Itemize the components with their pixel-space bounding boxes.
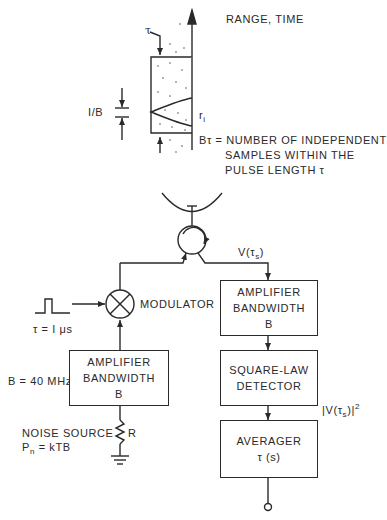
block-line: B [265, 316, 273, 332]
bandwidth-value-label: B = 40 MHz [8, 374, 72, 388]
block-line: AMPLIFIER [87, 354, 150, 370]
square-law-detector-block: SQUARE-LAW DETECTOR [220, 350, 318, 406]
signal-v-label: V(τs) [238, 245, 264, 264]
right-amplifier-block: AMPLIFIER BANDWIDTH B [220, 280, 318, 336]
tau-label: τ [145, 24, 152, 38]
range-cell-label: ri [199, 108, 206, 127]
block-line: B [115, 386, 123, 402]
averager-block: AVERAGER τ (s) [220, 420, 318, 478]
pulse-waveform [35, 299, 70, 313]
left-amplifier-block: AMPLIFIER BANDWIDTH B [69, 350, 169, 406]
btau-label-line2: SAMPLES WITHIN THE [225, 148, 355, 162]
axis-label: RANGE, TIME [226, 12, 304, 26]
resistor [116, 420, 124, 444]
block-line: DETECTOR [236, 378, 301, 394]
resistor-label: R [128, 426, 137, 440]
pulse-volume-outline [151, 57, 192, 133]
block-line: AVERAGER [236, 433, 301, 449]
noise-source-label: NOISE SOURCE [22, 426, 114, 440]
block-line: τ (s) [257, 449, 280, 465]
block-line: AMPLIFIER [237, 284, 300, 300]
bandwidth-marker-label: I/B [88, 105, 103, 119]
modulator-label: MODULATOR [140, 297, 215, 311]
btau-label-line3: PULSE LENGTH τ [225, 163, 325, 177]
tx-path [120, 253, 186, 263]
block-line: BANDWIDTH [233, 300, 305, 316]
block-line: SQUARE-LAW [229, 362, 309, 378]
pulse-label: τ = I μs [33, 322, 73, 336]
signal-squared-label: |V(τs)|2 [322, 400, 360, 422]
range-cell-shape [151, 98, 192, 126]
output-terminal [265, 504, 272, 511]
range-axis-arrowhead [188, 10, 196, 24]
btau-label-line1: Bτ = NUMBER OF INDEPENDENT [199, 133, 387, 147]
noise-power-label: Pn = kTB [22, 440, 71, 459]
block-line: BANDWIDTH [83, 370, 155, 386]
